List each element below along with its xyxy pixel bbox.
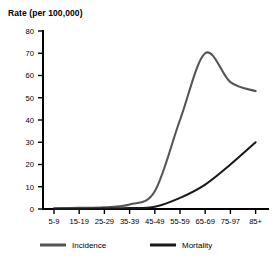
y-tick-label: 50 [26, 94, 34, 103]
x-tick-label: 15-19 [69, 217, 88, 226]
x-tick-label: 85+ [249, 217, 262, 226]
series-line-mortality [54, 142, 256, 209]
chart-figure: Rate (per 100,000) 01020304050607080 5-9… [0, 0, 277, 259]
x-tick-group: 5-915-1925-2935-3945-4955-5965-6975-9785… [49, 209, 263, 226]
x-tick-label: 35-39 [120, 217, 139, 226]
x-axis: 5-915-1925-2935-3945-4955-5965-6975-9785… [43, 209, 268, 226]
x-tick-label: 65-69 [195, 217, 214, 226]
chart-legend: IncidenceMortality [40, 241, 212, 250]
data-series-group [54, 52, 256, 208]
y-tick-label: 40 [26, 116, 34, 125]
series-line-incidence [54, 52, 256, 208]
y-tick-label: 20 [26, 160, 34, 169]
line-chart-plot: 01020304050607080 5-915-1925-2935-3945-4… [0, 0, 277, 259]
y-tick-label: 70 [26, 49, 34, 58]
y-tick-label: 0 [30, 205, 34, 214]
y-tick-label: 60 [26, 71, 34, 80]
x-tick-label: 55-59 [170, 217, 189, 226]
legend-label-mortality: Mortality [182, 241, 212, 250]
y-tick-label: 30 [26, 138, 34, 147]
y-tick-label: 80 [26, 27, 34, 36]
x-tick-label: 75-97 [221, 217, 240, 226]
x-tick-label: 45-49 [145, 217, 164, 226]
y-axis: 01020304050607080 [26, 27, 43, 214]
x-tick-label: 25-29 [95, 217, 114, 226]
x-tick-label: 5-9 [49, 217, 60, 226]
y-tick-group: 01020304050607080 [26, 27, 43, 214]
legend-label-incidence: Incidence [72, 241, 107, 250]
y-tick-label: 10 [26, 183, 34, 192]
